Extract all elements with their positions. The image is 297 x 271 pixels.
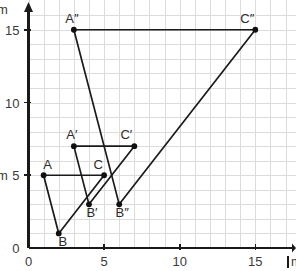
- vertex-label: B: [58, 234, 67, 249]
- vertex-point: [71, 143, 77, 149]
- x-axis-unit-label: m: [291, 254, 296, 269]
- vertex-point: [252, 27, 258, 33]
- vertex-point: [41, 172, 47, 178]
- y-axis-unit-label-secondary: m: [0, 168, 8, 183]
- vertex-label: C″: [240, 11, 254, 26]
- x-axis-arrowhead: [292, 244, 296, 253]
- coordinate-plane-svg: 051015051015 ABCA′B′C′A″B″C″ mmm: [0, 0, 296, 271]
- y-tick-label: 5: [12, 168, 19, 183]
- vertex-label: B′: [86, 205, 98, 220]
- x-tick-label: 15: [248, 254, 262, 269]
- y-axis-unit-label: m: [0, 2, 8, 17]
- vertex-label: B″: [116, 205, 130, 220]
- vertex-point: [71, 27, 77, 33]
- y-axis-arrowhead: [24, 2, 33, 12]
- vertex-label: A″: [65, 11, 79, 26]
- vertex-point: [101, 172, 107, 178]
- vertex-point: [131, 143, 137, 149]
- vertex-label: A: [43, 157, 52, 172]
- x-tick-label: 10: [172, 254, 186, 269]
- vertex-label: C: [93, 157, 102, 172]
- x-tick-label: 5: [100, 254, 107, 269]
- x-tick-label: 0: [25, 254, 32, 269]
- y-tick-label: 15: [5, 23, 19, 38]
- grid-layer: [29, 0, 297, 249]
- graph-canvas: 051015051015 ABCA′B′C′A″B″C″ mmm: [0, 0, 296, 271]
- y-tick-label: 10: [5, 96, 19, 111]
- y-tick-label: 0: [12, 241, 19, 256]
- vertex-label: C′: [120, 127, 132, 142]
- vertex-label: A′: [66, 127, 78, 142]
